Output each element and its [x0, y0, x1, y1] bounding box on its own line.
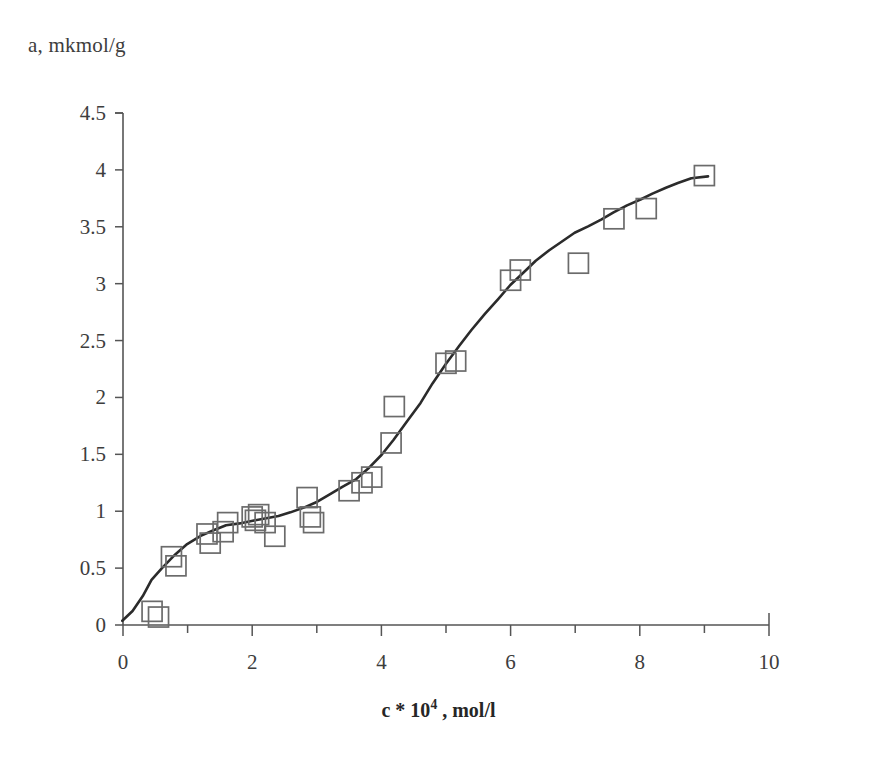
data-point-marker — [218, 513, 238, 533]
y-tick-label: 0 — [96, 613, 107, 637]
y-tick-label: 3.5 — [80, 215, 106, 239]
chart-figure: a, mkmol/g 00.511.522.533.544.50246810 c… — [0, 0, 877, 761]
data-point-marker — [384, 397, 404, 417]
x-tick-label: 4 — [376, 650, 387, 674]
x-tick-label: 8 — [635, 650, 646, 674]
data-point-marker — [142, 601, 162, 621]
fitted-curve — [122, 176, 708, 620]
x-axis-label-suffix: , mol/l — [437, 699, 495, 721]
y-tick-label: 2 — [96, 385, 107, 409]
data-point-marker — [636, 199, 656, 219]
x-axis-label: c * 104 , mol/l — [0, 697, 877, 722]
x-tick-label: 6 — [505, 650, 516, 674]
y-tick-label: 3 — [96, 272, 107, 296]
y-tick-label: 2.5 — [80, 329, 106, 353]
x-tick-label: 0 — [118, 650, 129, 674]
y-tick-label: 4 — [96, 158, 107, 182]
x-tick-label: 10 — [759, 650, 780, 674]
data-point-marker — [568, 253, 588, 273]
y-tick-label: 1.5 — [80, 442, 106, 466]
data-point-group — [142, 166, 714, 627]
scatter-plot-canvas: 00.511.522.533.544.50246810 — [0, 0, 877, 761]
data-point-marker — [297, 488, 317, 508]
y-tick-label: 4.5 — [80, 101, 106, 125]
y-tick-label: 0.5 — [80, 556, 106, 580]
x-axis-label-prefix: c * 10 — [381, 699, 430, 721]
y-tick-label: 1 — [96, 499, 107, 523]
data-point-marker — [149, 607, 169, 627]
data-point-marker — [166, 556, 186, 576]
x-tick-label: 2 — [247, 650, 258, 674]
